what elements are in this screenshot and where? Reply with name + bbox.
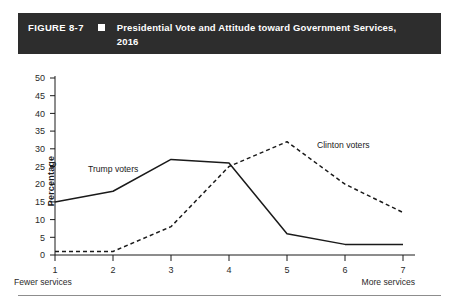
chart-plot-area: Percentage 05101520253035404550 1234567 …: [0, 60, 450, 295]
y-tick-label: 20: [35, 179, 45, 189]
y-tick-label: 15: [35, 197, 45, 207]
y-tick-label: 40: [35, 109, 45, 119]
x-axis-low-label: Fewer services: [14, 277, 72, 287]
x-tick-label: 3: [168, 265, 173, 275]
figure-header-bar: FIGURE 8-7 Presidential Vote and Attitud…: [18, 13, 441, 54]
x-tick-label: 4: [226, 265, 231, 275]
line-chart: 05101520253035404550 1234567 Fewer servi…: [0, 60, 450, 295]
x-axis-high-label: More services: [362, 277, 415, 287]
y-tick-label: 30: [35, 144, 45, 154]
y-tick-label: 50: [35, 73, 45, 83]
x-tick-label: 2: [110, 265, 115, 275]
x-tick-label: 5: [284, 265, 289, 275]
figure-title: Presidential Vote and Attitude toward Go…: [117, 21, 407, 48]
series-annotation-clinton-voters: Clinton voters: [317, 140, 370, 150]
figure-root: FIGURE 8-7 Presidential Vote and Attitud…: [0, 0, 450, 303]
figure-bottom-rule: [18, 295, 441, 296]
data-series-layer: [55, 142, 403, 252]
y-tick-label: 35: [35, 126, 45, 136]
square-bullet-icon: [98, 24, 105, 31]
x-tick-label: 6: [342, 265, 347, 275]
y-tick-label: 0: [40, 250, 45, 260]
y-tick-label: 5: [40, 233, 45, 243]
x-tick-label: 1: [52, 265, 57, 275]
series-line-clinton-voters: [55, 142, 403, 252]
x-tick-label: 7: [400, 265, 405, 275]
y-axis-title: Percentage: [46, 126, 56, 236]
figure-number-label: FIGURE 8-7: [28, 21, 84, 34]
y-tick-label: 45: [35, 91, 45, 101]
y-tick-label: 25: [35, 162, 45, 172]
y-tick-label: 10: [35, 215, 45, 225]
x-axis-ticks: 1234567: [52, 255, 405, 275]
series-annotation-trump-voters: Trump voters: [88, 164, 138, 174]
